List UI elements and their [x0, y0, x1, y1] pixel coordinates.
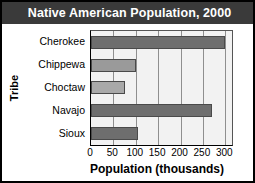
bar-navajo: [91, 104, 212, 117]
plot-area: [90, 30, 233, 146]
x-axis-tick-labels: 050100150200250300: [90, 147, 232, 160]
y-axis-tick-labels: Cherokee Chippewa Choctaw Navajo Sioux: [22, 30, 88, 144]
x-tick-label-0: 0: [87, 147, 93, 158]
y-tick-label-choctaw: Choctaw: [22, 76, 88, 99]
x-tick-label-250: 250: [194, 147, 211, 158]
x-tick-label-300: 300: [216, 147, 233, 158]
bar-row: [91, 77, 232, 100]
bar-series: [91, 31, 232, 145]
chart-title: Native American Population, 2000: [28, 6, 232, 20]
y-axis-title: Tribe: [6, 28, 22, 148]
x-tick-label-150: 150: [149, 147, 166, 158]
x-axis-title: Population (thousands): [62, 162, 252, 176]
chart-figure: Native American Population, 2000 Tribe C…: [0, 0, 255, 183]
x-tick-label-100: 100: [126, 147, 143, 158]
bar-row: [91, 122, 232, 145]
bar-cherokee: [91, 36, 225, 49]
bar-row: [91, 54, 232, 77]
y-axis-title-text: Tribe: [8, 75, 20, 101]
bar-choctaw: [91, 81, 125, 94]
y-tick-label-sioux: Sioux: [22, 121, 88, 144]
y-tick-label-navajo: Navajo: [22, 98, 88, 121]
x-tick-label-200: 200: [171, 147, 188, 158]
x-tick-label-50: 50: [107, 147, 118, 158]
y-tick-label-cherokee: Cherokee: [22, 30, 88, 53]
bar-row: [91, 31, 232, 54]
chart-title-bar: Native American Population, 2000: [2, 2, 255, 24]
y-tick-label-chippewa: Chippewa: [22, 53, 88, 76]
bar-sioux: [91, 127, 138, 140]
bar-chippewa: [91, 59, 136, 72]
bar-row: [91, 99, 232, 122]
